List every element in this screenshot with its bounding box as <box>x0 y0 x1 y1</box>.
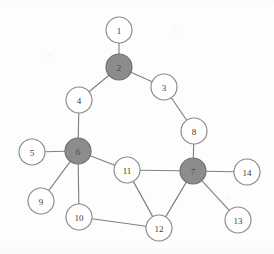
graph-node-label-9: 9 <box>39 197 44 207</box>
graph-node-label-3: 3 <box>162 83 167 93</box>
graph-node-label-4: 4 <box>77 96 82 106</box>
node-layer: 1234567891011121314 <box>19 17 260 241</box>
graph-edge-6-11 <box>90 156 115 166</box>
graph-node-11[interactable]: 11 <box>114 157 140 183</box>
graph-edge-7-11 <box>140 170 180 171</box>
graph-edge-2-3 <box>131 72 152 81</box>
graph-edge-11-12 <box>133 181 152 216</box>
graph-edge-7-12 <box>166 182 187 217</box>
graph-node-label-1: 1 <box>117 26 122 36</box>
graph-node-label-6: 6 <box>76 147 81 157</box>
graph-edge-7-14 <box>206 171 234 172</box>
graph-node-2[interactable]: 2 <box>106 54 132 80</box>
graph-node-7[interactable]: 7 <box>180 158 206 184</box>
graph-node-13[interactable]: 13 <box>225 207 251 233</box>
graph-node-5[interactable]: 5 <box>19 139 45 165</box>
graph-node-label-11: 11 <box>123 166 132 176</box>
graph-edge-2-4 <box>89 75 109 91</box>
graph-node-label-12: 12 <box>155 224 164 234</box>
graph-node-6[interactable]: 6 <box>65 138 91 164</box>
graph-node-label-5: 5 <box>30 148 35 158</box>
graph-node-12[interactable]: 12 <box>146 215 172 241</box>
graph-edge-7-13 <box>202 181 229 211</box>
graph-node-label-8: 8 <box>192 127 197 137</box>
graph-figure: 1234567891011121314 <box>0 0 274 254</box>
graph-edge-6-10 <box>78 164 79 204</box>
graph-node-label-10: 10 <box>75 213 85 223</box>
graph-node-8[interactable]: 8 <box>181 118 207 144</box>
graph-edge-3-8 <box>171 98 186 121</box>
graph-node-1[interactable]: 1 <box>106 17 132 43</box>
graph-node-label-14: 14 <box>243 168 253 178</box>
graph-edge-10-12 <box>92 219 146 226</box>
graph-node-9[interactable]: 9 <box>28 188 54 214</box>
graph-node-4[interactable]: 4 <box>66 87 92 113</box>
graph-canvas: 1234567891011121314 <box>0 0 274 254</box>
graph-edge-6-9 <box>49 161 71 190</box>
graph-node-14[interactable]: 14 <box>234 159 260 185</box>
graph-node-label-13: 13 <box>234 216 244 226</box>
graph-node-label-7: 7 <box>191 167 196 177</box>
graph-node-10[interactable]: 10 <box>66 204 92 230</box>
graph-node-label-2: 2 <box>117 63 122 73</box>
graph-node-3[interactable]: 3 <box>151 74 177 100</box>
graph-edge-4-6 <box>78 113 79 138</box>
